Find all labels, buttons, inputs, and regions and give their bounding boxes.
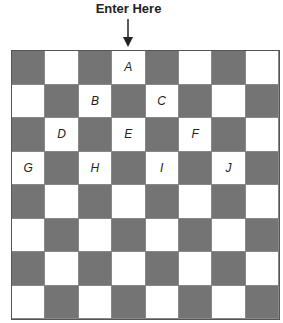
board-cell-r5-c7 — [246, 219, 279, 253]
board-cell-r1-c6 — [212, 85, 245, 119]
board-cell-r5-c5 — [179, 219, 212, 253]
board-cell-r0-c4 — [146, 51, 179, 85]
cell-label: B — [91, 94, 99, 108]
board-cell-r2-c7 — [246, 118, 279, 152]
board-cell-r1-c0 — [12, 85, 45, 119]
board-cell-r7-c6 — [212, 286, 245, 320]
board-cell-r4-c5 — [179, 185, 212, 219]
board-cell-r0-c6 — [212, 51, 245, 85]
board-cell-r6-c4 — [146, 252, 179, 286]
board-cell-r7-c0 — [12, 286, 45, 320]
enter-here-title: Enter Here — [0, 1, 257, 16]
checkerboard-grid: ABCDEFGHIJ — [11, 50, 280, 320]
board-cell-r5-c6 — [212, 219, 245, 253]
board-cell-r2-c0 — [12, 118, 45, 152]
board-cell-r0-c5 — [179, 51, 212, 85]
board-cell-r4-c4 — [146, 185, 179, 219]
board-cell-r4-c1 — [45, 185, 78, 219]
board-cell-r0-c3: A — [112, 51, 145, 85]
board-cell-r4-c3 — [112, 185, 145, 219]
cell-label: C — [157, 94, 166, 108]
board-cell-r4-c2 — [79, 185, 112, 219]
board-cell-r2-c1: D — [45, 118, 78, 152]
board-cell-r5-c4 — [146, 219, 179, 253]
board-cell-r1-c2: B — [79, 85, 112, 119]
board-cell-r4-c6 — [212, 185, 245, 219]
board-cell-r1-c4: C — [146, 85, 179, 119]
board-cell-r3-c7 — [246, 152, 279, 186]
board-cell-r6-c1 — [45, 252, 78, 286]
cell-label: J — [225, 161, 231, 175]
board-cell-r1-c3 — [112, 85, 145, 119]
board-cell-r3-c1 — [45, 152, 78, 186]
board-cell-r5-c0 — [12, 219, 45, 253]
board-cell-r5-c2 — [79, 219, 112, 253]
board-cell-r4-c7 — [246, 185, 279, 219]
board-cell-r2-c5: F — [179, 118, 212, 152]
cell-label: G — [24, 161, 33, 175]
board-cell-r7-c2 — [79, 286, 112, 320]
board-cell-r2-c2 — [79, 118, 112, 152]
cell-label: F — [191, 127, 198, 141]
board-cell-r5-c1 — [45, 219, 78, 253]
board-cell-r3-c4: I — [146, 152, 179, 186]
cell-label: D — [57, 127, 66, 141]
board-cell-r4-c0 — [12, 185, 45, 219]
board-cell-r0-c2 — [79, 51, 112, 85]
board-cell-r2-c6 — [212, 118, 245, 152]
board-cell-r7-c3 — [112, 286, 145, 320]
board-cell-r1-c1 — [45, 85, 78, 119]
board-cell-r3-c3 — [112, 152, 145, 186]
board-cell-r7-c5 — [179, 286, 212, 320]
board-cell-r6-c5 — [179, 252, 212, 286]
board-cell-r6-c3 — [112, 252, 145, 286]
board-cell-r3-c5 — [179, 152, 212, 186]
board-cell-r7-c1 — [45, 286, 78, 320]
board-cell-r6-c2 — [79, 252, 112, 286]
cell-label: A — [124, 60, 132, 74]
cell-label: H — [91, 161, 100, 175]
board-cell-r3-c2: H — [79, 152, 112, 186]
down-arrow-icon — [121, 19, 135, 47]
board-cell-r2-c4 — [146, 118, 179, 152]
board-cell-r6-c0 — [12, 252, 45, 286]
board-cell-r0-c0 — [12, 51, 45, 85]
board-cell-r5-c3 — [112, 219, 145, 253]
board-cell-r1-c5 — [179, 85, 212, 119]
cell-label: I — [160, 161, 163, 175]
board-cell-r6-c7 — [246, 252, 279, 286]
board-cell-r7-c7 — [246, 286, 279, 320]
board-cell-r3-c0: G — [12, 152, 45, 186]
board-cell-r7-c4 — [146, 286, 179, 320]
board-cell-r0-c7 — [246, 51, 279, 85]
board-cell-r3-c6: J — [212, 152, 245, 186]
board-cell-r1-c7 — [246, 85, 279, 119]
board-cell-r2-c3: E — [112, 118, 145, 152]
board-cell-r6-c6 — [212, 252, 245, 286]
board-cell-r0-c1 — [45, 51, 78, 85]
cell-label: E — [124, 127, 132, 141]
